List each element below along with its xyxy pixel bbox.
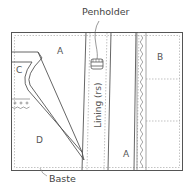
label-d: D	[36, 136, 43, 145]
penholder-callout: Penholder	[82, 7, 130, 17]
baste-callout: Baste	[49, 174, 76, 184]
label-c: C	[16, 66, 22, 75]
label-b: B	[157, 53, 163, 62]
lining-label: Lining (rs)	[94, 83, 103, 128]
label-a-bottom: A	[123, 150, 129, 159]
label-a-top: A	[57, 47, 63, 56]
penholder-icon	[91, 59, 103, 69]
